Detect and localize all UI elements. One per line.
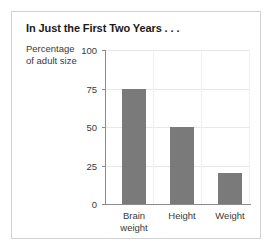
x-tick-label-brain-weight-line-2: weight xyxy=(110,222,158,234)
y-tick-label-50: 50 xyxy=(86,123,97,133)
y-tick-mark-50: 50 xyxy=(102,127,105,128)
y-axis-line xyxy=(105,50,106,205)
y-tick-label-75: 75 xyxy=(86,85,97,95)
y-axis-label: Percentage of adult size xyxy=(26,43,88,66)
x-tick-label-brain-weight-line-1: Brain xyxy=(110,210,158,222)
x-tick-label-height-line-1: Height xyxy=(158,210,206,222)
x-tick-label-height: Height xyxy=(158,210,206,222)
y-tick-mark-25: 25 xyxy=(102,166,105,167)
y-axis-label-line-2: of adult size xyxy=(26,55,88,67)
y-tick-label-100: 100 xyxy=(81,46,97,56)
y-tick-mark-100: 100 xyxy=(102,50,105,51)
gridline-100 xyxy=(105,50,250,51)
x-axis-line xyxy=(105,204,251,205)
y-tick-mark-0: 0 xyxy=(102,204,105,205)
gridline-vertical-1 xyxy=(153,50,154,204)
chart-title: In Just the First Two Years . . . xyxy=(26,22,179,34)
y-tick-label-0: 0 xyxy=(92,200,97,210)
x-tick-label-brain-weight: Brain weight xyxy=(110,210,158,233)
bar-brain-weight xyxy=(122,89,146,205)
y-axis-label-line-1: Percentage xyxy=(26,43,88,55)
bar-weight xyxy=(218,173,242,204)
x-tick-label-weight: Weight xyxy=(206,210,254,222)
y-tick-mark-75: 75 xyxy=(102,89,105,90)
gridline-vertical-3 xyxy=(249,50,250,204)
gridline-vertical-2 xyxy=(201,50,202,204)
plot-area: 100 75 50 25 0 Brain weight Height Weigh… xyxy=(105,50,250,204)
chart-figure: In Just the First Two Years . . . Percen… xyxy=(11,11,261,239)
x-tick-label-weight-line-1: Weight xyxy=(206,210,254,222)
bar-height xyxy=(170,127,194,204)
y-tick-label-25: 25 xyxy=(86,162,97,172)
